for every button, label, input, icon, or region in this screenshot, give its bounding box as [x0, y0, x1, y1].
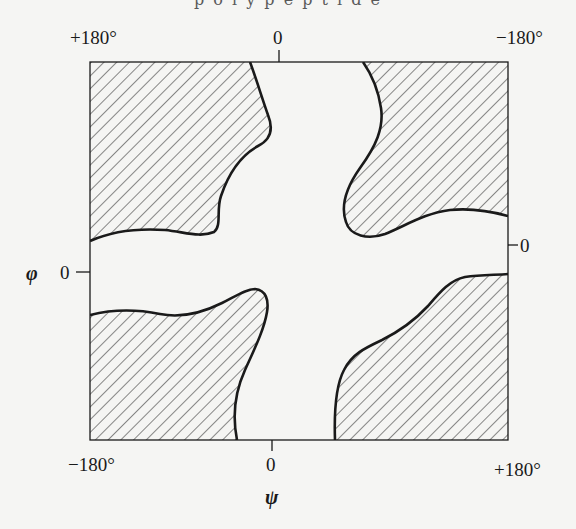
top-center-label: 0 — [273, 28, 283, 47]
bottom-right-label: +180° — [494, 460, 541, 479]
region-bottom-right — [335, 274, 508, 440]
figure-page: p o l y p e p t i d e — [0, 0, 576, 529]
psi-axis-symbol: ψ — [265, 487, 278, 507]
right-zero-label: 0 — [520, 236, 530, 255]
bottom-center-label: 0 — [266, 455, 276, 474]
bottom-left-label: −180° — [68, 455, 115, 474]
phi-axis-symbol: φ — [26, 263, 38, 283]
ramachandran-plot — [0, 0, 576, 529]
region-top-left — [90, 62, 271, 241]
left-zero-label: 0 — [60, 263, 70, 282]
top-right-label: −180° — [496, 28, 543, 47]
top-left-label: +180° — [70, 28, 117, 47]
